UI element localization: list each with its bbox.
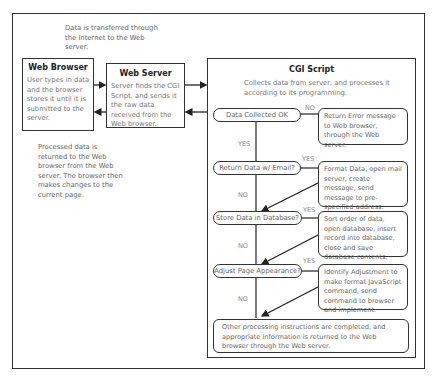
action-adjust-page: Identify Adjustment to make format JavaS… bbox=[318, 264, 408, 310]
decision-adjust-page: Adjust Page Appearance? bbox=[213, 264, 302, 278]
decision-store-database: Store Data in Database? bbox=[213, 211, 302, 225]
down-label-3: NO bbox=[238, 242, 248, 250]
branch-label-4: YES bbox=[303, 257, 315, 265]
down-label-4: NO bbox=[238, 295, 248, 303]
branch-label-1: NO bbox=[305, 104, 315, 112]
down-label-2: NO bbox=[238, 191, 248, 199]
return-arrow-4 bbox=[262, 287, 318, 316]
decision-return-email: Return Data w/ Email? bbox=[213, 161, 301, 175]
branch-label-3: YES bbox=[303, 206, 315, 214]
branch-label-2: YES bbox=[302, 155, 314, 163]
decision-data-collected: Data Collected OK bbox=[213, 108, 301, 122]
action-store-database: Sort order of data, open database, inser… bbox=[318, 211, 408, 257]
down-label-1: YES bbox=[238, 140, 250, 148]
action-send-email: Format Data, open mail server, create me… bbox=[318, 161, 408, 207]
final-step-box: Other processing instructions are comple… bbox=[213, 319, 409, 353]
action-error-message: Return Error message to Web browser, thr… bbox=[318, 108, 408, 145]
